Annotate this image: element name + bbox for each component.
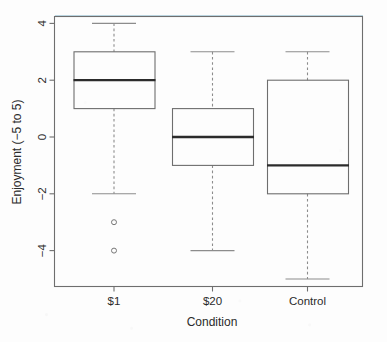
top-edge-tint (55, 15, 363, 16)
y-tick-label-2: 2 (36, 77, 48, 83)
x-tick-label-dollar1: $1 (108, 295, 121, 307)
y-tick-label-neg2: −2 (36, 187, 48, 200)
y-tick-label-neg4: −4 (36, 243, 48, 257)
y-tick-label-4: 4 (36, 20, 48, 27)
x-axis-title: Condition (187, 315, 238, 329)
boxplot-figure: 4 2 0 −2 −4 Enjoyment (−5 to 5) $1 $20 C… (0, 0, 387, 342)
x-tick-label-dollar20: $20 (203, 295, 222, 307)
x-tick-label-control: Control (289, 295, 326, 307)
y-axis-title: Enjoyment (−5 to 5) (10, 99, 24, 204)
y-tick-label-0: 0 (36, 134, 48, 140)
